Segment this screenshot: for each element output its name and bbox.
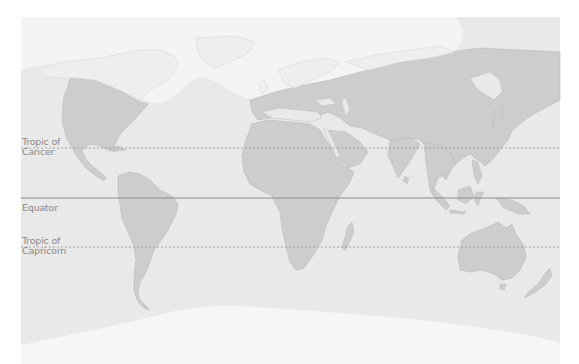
equator-label-text: Equator [22,203,58,213]
tropic-of-capricorn-label: Tropic of Capricorn [22,236,66,256]
world-map: Tropic of Cancer Equator Tropic of Capri… [0,0,579,364]
tropic-of-capricorn-label-line2: Capricorn [22,246,66,256]
tropic-of-cancer-label-line2: Cancer [22,147,60,157]
equator-label: Equator [22,203,58,213]
tropic-of-cancer-label: Tropic of Cancer [22,137,60,157]
map-canvas [0,0,579,364]
